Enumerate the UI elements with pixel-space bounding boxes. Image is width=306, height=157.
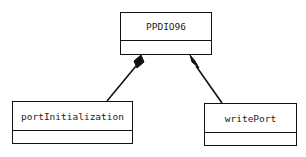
class-name: portInitialization <box>13 102 132 131</box>
filled-diamond-icon <box>190 55 199 68</box>
class-name: writePort <box>205 104 296 133</box>
class-ppdio96[interactable]: PPDIO96 <box>120 12 212 55</box>
class-writeport[interactable]: writePort <box>204 103 297 146</box>
class-portinitialization[interactable]: portInitialization <box>12 101 133 144</box>
uml-diagram: PPDIO96 portInitialization writePort <box>0 0 306 157</box>
composition-right <box>190 55 222 103</box>
composition-left <box>107 55 144 101</box>
class-name: PPDIO96 <box>121 13 211 41</box>
